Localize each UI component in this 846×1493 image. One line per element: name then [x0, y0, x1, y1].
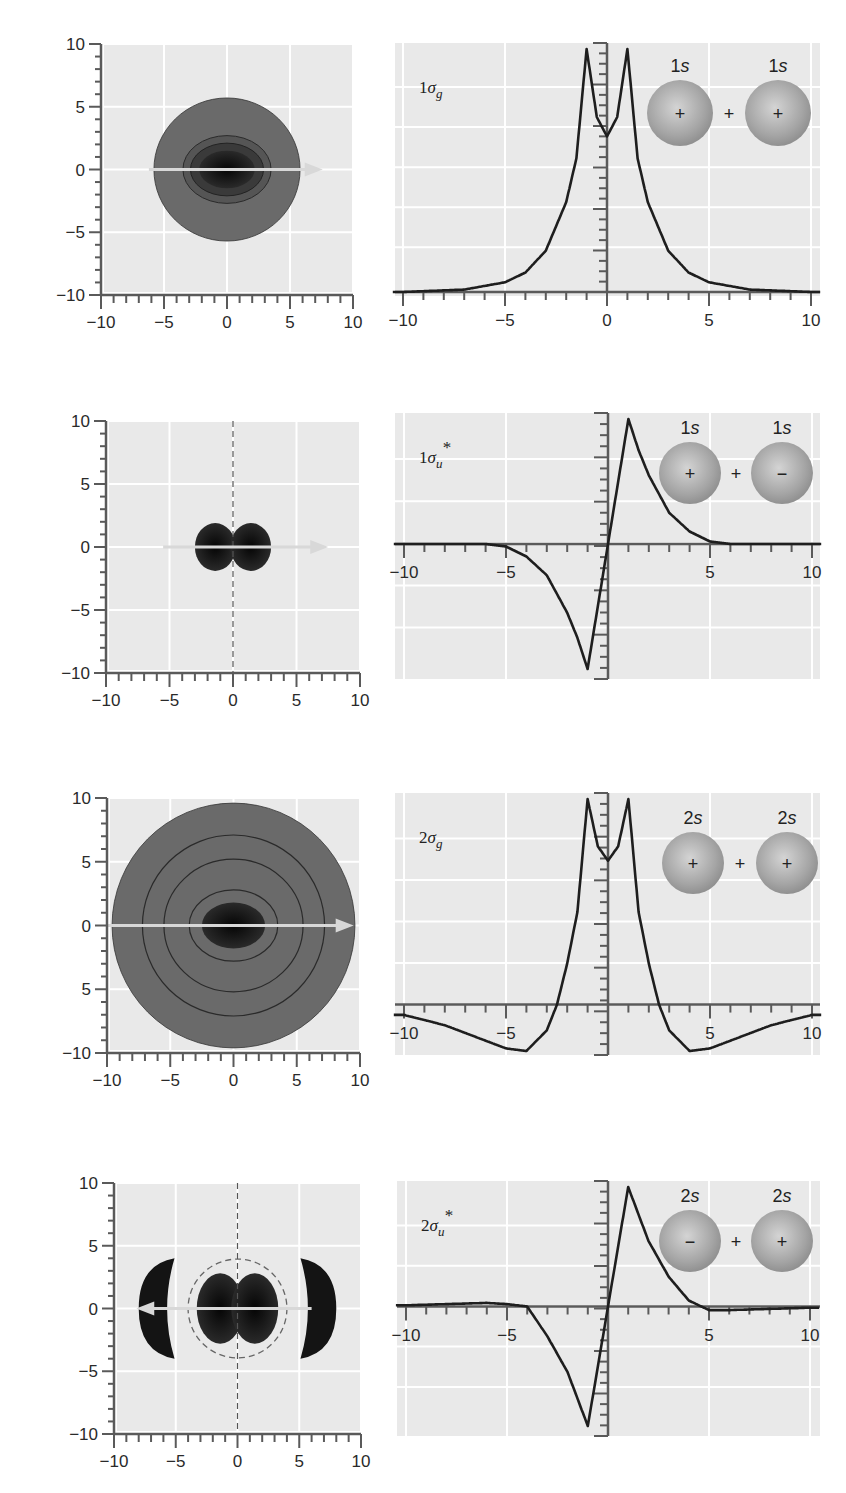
y-tick-label: 5 — [82, 980, 91, 999]
basis-orbital-label: 1s — [768, 56, 787, 76]
orbital-n: 1 — [680, 418, 690, 438]
y-tick-label: −10 — [62, 1044, 91, 1063]
y-tick-label: −10 — [69, 1425, 98, 1444]
y-tick-label: −5 — [71, 601, 90, 620]
orbital-l: s — [779, 56, 788, 76]
basis-orbital-label: 2s — [683, 808, 702, 828]
orbital-label-subscript: g — [436, 836, 443, 851]
y-tick-label: 10 — [79, 1174, 98, 1193]
orbital-label-number: 1 — [419, 78, 428, 97]
y-tick-label: −5 — [79, 1362, 98, 1381]
y-tick-label: −10 — [56, 286, 85, 305]
orbital-l: s — [783, 418, 792, 438]
x-tick-label: −10 — [93, 1071, 122, 1090]
x-tick-label: 5 — [705, 563, 714, 582]
plus-sign-icon: + — [675, 104, 686, 124]
x-tick-label: −10 — [390, 1024, 419, 1043]
orbital-l: s — [788, 808, 797, 828]
minus-sign-icon: − — [777, 464, 788, 484]
x-tick-label: −10 — [87, 313, 116, 332]
orbital-l: s — [694, 808, 703, 828]
minus-sign-icon: − — [685, 1232, 696, 1252]
plus-sign-icon: + — [685, 464, 696, 484]
orbital-n: 1 — [768, 56, 778, 76]
x-tick-label: −5 — [497, 1326, 516, 1345]
combination-plus-icon: + — [735, 854, 746, 874]
y-tick-label: 0 — [81, 538, 90, 557]
x-tick-label: −10 — [389, 311, 418, 330]
orbital-n: 1 — [772, 418, 782, 438]
plus-sign-icon: + — [688, 854, 699, 874]
orbital-figure: 1050−5−10−10−50510−10−505101σg1s+1s++105… — [0, 0, 846, 1493]
x-tick-label: −10 — [392, 1326, 421, 1345]
x-tick-label: 5 — [295, 1452, 304, 1471]
x-tick-label: −5 — [154, 313, 173, 332]
x-tick-label: 0 — [229, 1071, 238, 1090]
orbital-l: s — [783, 1186, 792, 1206]
y-tick-label: 5 — [82, 853, 91, 872]
x-tick-label: 5 — [292, 1071, 301, 1090]
x-tick-label: 0 — [228, 691, 237, 710]
x-tick-label: 10 — [344, 313, 363, 332]
x-tick-label: 10 — [352, 1452, 371, 1471]
profile-plot-1sigma_u_star: −10−55101σu*1s+1s−+ — [390, 413, 822, 679]
orbital-label-subscript: g — [436, 86, 443, 101]
plus-sign-icon: + — [782, 854, 793, 874]
x-tick-label: 10 — [803, 1024, 822, 1043]
x-tick-label: 0 — [602, 311, 611, 330]
y-tick-label: −5 — [66, 223, 85, 242]
orbital-n: 2 — [680, 1186, 690, 1206]
x-tick-label: 10 — [351, 691, 370, 710]
x-tick-label: 5 — [705, 1024, 714, 1043]
orbital-n: 2 — [683, 808, 693, 828]
contour-plot-1sigma_g: 1050−5−10−10−50510 — [56, 35, 362, 332]
orbital-l: s — [681, 56, 690, 76]
x-tick-label: 10 — [351, 1071, 370, 1090]
x-tick-label: 10 — [802, 311, 821, 330]
y-tick-label: 5 — [89, 1237, 98, 1256]
x-tick-label: 5 — [704, 1326, 713, 1345]
y-tick-label: 5 — [81, 475, 90, 494]
x-tick-label: −10 — [92, 691, 121, 710]
x-tick-label: −5 — [160, 691, 179, 710]
basis-orbital-label: 1s — [772, 418, 791, 438]
y-tick-label: 5 — [76, 98, 85, 117]
x-tick-label: −5 — [496, 1024, 515, 1043]
profile-plot-2sigma_g: −10−55102σg2s+2s++ — [390, 793, 822, 1055]
x-tick-label: −10 — [390, 563, 419, 582]
orbital-l: s — [691, 1186, 700, 1206]
contour-plot-1sigma_u_star: 1050−5−10−10−50510 — [61, 412, 369, 710]
orbital-label-number: 2 — [421, 1216, 430, 1235]
y-tick-label: 0 — [76, 161, 85, 180]
combination-plus-icon: + — [731, 464, 742, 484]
orbital-label-subscript: u — [438, 1224, 445, 1239]
orbital-label-number: 2 — [419, 828, 428, 847]
combination-plus-icon: + — [731, 1232, 742, 1252]
x-tick-label: 10 — [803, 563, 822, 582]
plus-sign-icon: + — [773, 104, 784, 124]
contour-plot-2sigma_u_star: 1050−5−10−10−50510 — [69, 1174, 370, 1471]
combination-plus-icon: + — [724, 104, 735, 124]
plus-sign-icon: + — [777, 1232, 788, 1252]
antibonding-star: * — [443, 438, 452, 457]
y-tick-label: 0 — [89, 1300, 98, 1319]
x-tick-label: 5 — [292, 691, 301, 710]
orbital-label-subscript: u — [436, 456, 443, 471]
basis-orbital-label: 1s — [670, 56, 689, 76]
profile-plot-2sigma_u_star: −10−55102σu*2s−2s++ — [392, 1181, 820, 1436]
x-tick-label: 5 — [285, 313, 294, 332]
y-tick-label: 10 — [71, 412, 90, 431]
orbital-n: 2 — [777, 808, 787, 828]
x-tick-label: −5 — [166, 1452, 185, 1471]
x-tick-label: −5 — [161, 1071, 180, 1090]
x-tick-label: 5 — [704, 311, 713, 330]
x-tick-label: 0 — [233, 1452, 242, 1471]
orbital-l: s — [691, 418, 700, 438]
x-tick-label: 10 — [801, 1326, 820, 1345]
y-tick-label: −10 — [61, 664, 90, 683]
basis-orbital-label: 1s — [680, 418, 699, 438]
orbital-n: 1 — [670, 56, 680, 76]
x-tick-label: 0 — [222, 313, 231, 332]
x-tick-label: −5 — [495, 311, 514, 330]
profile-plot-1sigma_g: −10−505101σg1s+1s++ — [389, 43, 821, 330]
